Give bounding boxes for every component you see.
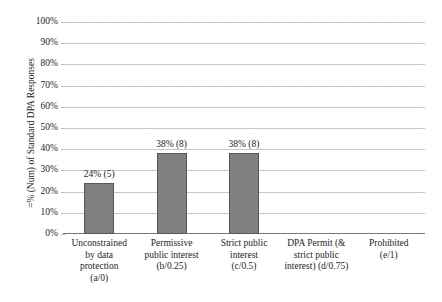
bar[interactable] xyxy=(84,183,114,234)
bar-value-label: 24% (5) xyxy=(84,169,115,180)
x-axis-category-labels: Unconstrainedby dataprotection(a/0)Permi… xyxy=(63,238,442,300)
bar-slot: 24% (5) xyxy=(63,22,135,234)
y-axis-tick-100pct: 100% xyxy=(0,16,58,26)
x-axis-category-label-line: (a/0) xyxy=(57,273,141,285)
bar[interactable] xyxy=(229,153,259,234)
y-axis-tick-50pct: 50% xyxy=(0,122,58,132)
bar-value-label: 38% (8) xyxy=(156,139,187,150)
bar-slot: 38% (8) xyxy=(135,22,207,234)
y-axis-tick-80pct: 80% xyxy=(0,58,58,68)
bar-chart: =% (Num) of Standard DPA Responses 0%10%… xyxy=(0,0,442,302)
x-axis-category-label-line: (e/1) xyxy=(347,250,431,262)
y-axis-tick-0pct: 0% xyxy=(0,228,58,238)
bar-value-label: 38% (8) xyxy=(229,139,260,150)
x-axis-category-label-line: interest) (d/0.75) xyxy=(274,261,358,273)
bar-slot xyxy=(280,22,352,234)
y-axis-tick-60pct: 60% xyxy=(0,101,58,111)
bar[interactable] xyxy=(157,153,187,234)
bar-slot: 38% (8) xyxy=(208,22,280,234)
bar-series: 24% (5)38% (8)38% (8) xyxy=(63,22,425,234)
y-axis-tick-70pct: 70% xyxy=(0,80,58,90)
x-axis-category-label-line: Prohibited xyxy=(347,238,431,250)
bar-slot xyxy=(353,22,425,234)
y-axis-tick-40pct: 40% xyxy=(0,143,58,153)
y-axis-tick-20pct: 20% xyxy=(0,186,58,196)
y-axis-tick-90pct: 90% xyxy=(0,37,58,47)
y-axis-tick-labels: 0%10%20%30%40%50%60%70%80%90%100% xyxy=(0,0,62,260)
y-axis-tick-30pct: 30% xyxy=(0,164,58,174)
y-axis-tick-10pct: 10% xyxy=(0,207,58,217)
x-axis-category-label: Prohibited(e/1) xyxy=(347,238,431,261)
